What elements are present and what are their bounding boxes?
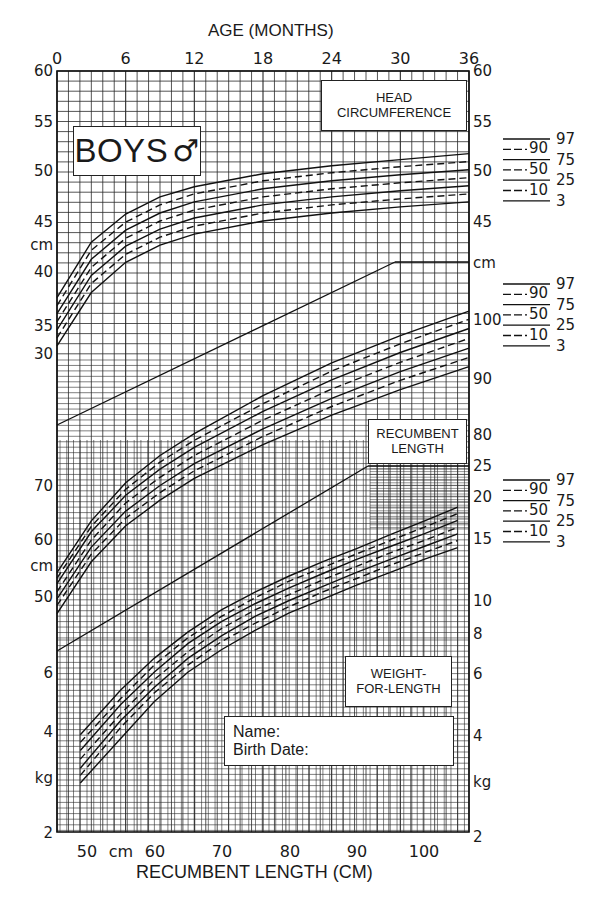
- weight-for-length-label: WEIGHT- FOR-LENGTH: [345, 656, 452, 707]
- svg-text:55: 55: [34, 113, 53, 131]
- svg-text:10: 10: [529, 522, 548, 540]
- svg-text:55: 55: [473, 113, 492, 131]
- svg-text:80: 80: [473, 426, 492, 444]
- svg-text:cm: cm: [109, 842, 133, 861]
- svg-text:4: 4: [43, 723, 53, 741]
- percentile-legends: 979075502510397907550251039790755025103: [503, 130, 575, 551]
- svg-text:20: 20: [473, 488, 492, 506]
- boys-label-box: BOYS ♂: [73, 126, 201, 176]
- name-field[interactable]: Name:: [233, 723, 280, 741]
- svg-text:97: 97: [556, 471, 575, 489]
- svg-text:6: 6: [43, 664, 53, 682]
- svg-text:12: 12: [184, 49, 204, 68]
- svg-text:50: 50: [77, 842, 97, 861]
- svg-text:8: 8: [473, 625, 483, 643]
- svg-text:70: 70: [34, 477, 53, 495]
- svg-text:50: 50: [34, 588, 53, 606]
- svg-text:40: 40: [34, 263, 53, 281]
- length-axis-title: RECUMBENT LENGTH (CM): [136, 862, 373, 883]
- svg-text:25: 25: [556, 171, 575, 189]
- head-label-line2: CIRCUMFERENCE: [337, 106, 451, 121]
- svg-text:97: 97: [556, 275, 575, 293]
- svg-text:100: 100: [473, 311, 502, 329]
- svg-text:90: 90: [529, 139, 548, 157]
- svg-text:24: 24: [321, 49, 341, 68]
- wfl-label-line2: FOR-LENGTH: [356, 682, 441, 697]
- svg-text:97: 97: [556, 130, 575, 148]
- svg-text:60: 60: [34, 62, 53, 80]
- svg-text:90: 90: [529, 480, 548, 498]
- svg-text:10: 10: [529, 181, 548, 199]
- svg-text:3: 3: [556, 337, 566, 355]
- svg-text:10: 10: [529, 326, 548, 344]
- length-label-line2: LENGTH: [391, 442, 444, 457]
- age-axis-title: AGE (MONTHS): [208, 21, 334, 41]
- svg-text:35: 35: [34, 317, 53, 335]
- svg-text:18: 18: [253, 49, 273, 68]
- svg-text:60: 60: [473, 62, 492, 80]
- length-label-line1: RECUMBENT: [376, 427, 458, 442]
- svg-text:70: 70: [212, 842, 232, 861]
- svg-text:25: 25: [473, 457, 492, 475]
- svg-text:10: 10: [473, 592, 492, 610]
- head-label-line1: HEAD: [376, 91, 412, 106]
- svg-text:100: 100: [409, 842, 440, 861]
- svg-text:2: 2: [473, 828, 483, 846]
- male-symbol-icon: ♂: [172, 134, 199, 169]
- svg-text:3: 3: [556, 533, 566, 551]
- svg-text:50: 50: [529, 501, 548, 519]
- svg-text:15: 15: [473, 530, 492, 548]
- svg-text:60: 60: [34, 531, 53, 549]
- svg-text:30: 30: [34, 345, 53, 363]
- svg-text:25: 25: [556, 316, 575, 334]
- svg-text:50: 50: [529, 305, 548, 323]
- patient-info-box[interactable]: Name: Birth Date:: [224, 716, 454, 766]
- svg-text:45: 45: [34, 213, 53, 231]
- svg-text:6: 6: [473, 665, 483, 683]
- svg-text:0: 0: [52, 49, 62, 68]
- recumbent-length-label: RECUMBENT LENGTH: [368, 419, 467, 464]
- svg-text:kg: kg: [473, 773, 491, 791]
- svg-text:90: 90: [347, 842, 367, 861]
- svg-text:6: 6: [121, 49, 131, 68]
- svg-text:cm: cm: [30, 236, 53, 254]
- svg-text:90: 90: [473, 370, 492, 388]
- svg-text:3: 3: [556, 192, 566, 210]
- svg-text:75: 75: [556, 492, 575, 510]
- svg-text:90: 90: [529, 284, 548, 302]
- svg-text:50: 50: [529, 160, 548, 178]
- head-circumference-label: HEAD CIRCUMFERENCE: [321, 80, 467, 131]
- svg-text:cm: cm: [30, 557, 53, 575]
- svg-text:25: 25: [556, 512, 575, 530]
- svg-text:60: 60: [145, 842, 165, 861]
- svg-text:75: 75: [556, 296, 575, 314]
- birth-date-field[interactable]: Birth Date:: [233, 741, 309, 759]
- svg-text:4: 4: [473, 727, 483, 745]
- svg-text:cm: cm: [473, 254, 496, 272]
- svg-text:30: 30: [390, 49, 410, 68]
- svg-text:75: 75: [556, 151, 575, 169]
- svg-text:50: 50: [34, 162, 53, 180]
- wfl-label-line1: WEIGHT-: [371, 667, 427, 682]
- svg-text:45: 45: [473, 213, 492, 231]
- boys-label: BOYS: [74, 132, 168, 170]
- svg-text:kg: kg: [35, 769, 53, 787]
- svg-text:2: 2: [43, 824, 53, 842]
- svg-text:80: 80: [280, 842, 300, 861]
- svg-text:50: 50: [473, 162, 492, 180]
